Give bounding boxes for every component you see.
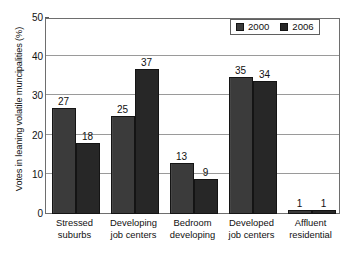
- bar-2000-developed-job-centers[interactable]: 35: [229, 77, 253, 214]
- legend-label-2000: 2000: [248, 22, 269, 32]
- y-tick-label: 40: [21, 52, 43, 62]
- x-category-label-line: Affluent: [274, 217, 348, 229]
- bar-2006-developing-job-centers[interactable]: 37: [135, 69, 159, 214]
- y-tick-label: 50: [21, 13, 43, 23]
- y-tick-label: 30: [21, 91, 43, 101]
- bar-2000-affluent-residential[interactable]: 1: [288, 210, 312, 214]
- bar-value-label: 35: [235, 66, 246, 76]
- bar-value-label: 9: [203, 168, 209, 178]
- legend-item-2006[interactable]: 2006: [280, 22, 313, 32]
- bar-group: 3534: [229, 18, 277, 214]
- y-axis-tick-labels: 01020304050: [17, 18, 43, 214]
- bars-layer: 27182537139353411: [45, 18, 340, 214]
- bar-value-label: 13: [176, 152, 187, 162]
- bar-2006-affluent-residential[interactable]: 1: [312, 210, 336, 214]
- bar-2000-bedroom-developing[interactable]: 13: [170, 163, 194, 214]
- bar-value-label: 18: [82, 132, 93, 142]
- bar-chart: Votes in leaning volatile muncipalities …: [0, 0, 356, 254]
- bar-value-label: 1: [297, 199, 303, 209]
- legend: 2000 2006: [230, 19, 320, 35]
- y-tick-label: 20: [21, 131, 43, 141]
- bar-group: 2537: [111, 18, 159, 214]
- bar-value-label: 34: [259, 70, 270, 80]
- bar-group: 2718: [52, 18, 100, 214]
- y-tick-label: 10: [21, 170, 43, 180]
- x-axis-category-labels: StressedsuburbsDevelopingjob centersBedr…: [45, 217, 340, 251]
- bar-2006-developed-job-centers[interactable]: 34: [253, 81, 277, 214]
- legend-label-2006: 2006: [292, 22, 313, 32]
- bar-value-label: 25: [117, 105, 128, 115]
- legend-swatch-icon-2006: [280, 23, 288, 31]
- bar-2000-stressed-suburbs[interactable]: 27: [52, 108, 76, 214]
- legend-item-2000[interactable]: 2000: [236, 22, 269, 32]
- bar-group: 11: [288, 18, 336, 214]
- bar-value-label: 37: [141, 58, 152, 68]
- x-category-label: Affluentresidential: [274, 217, 348, 240]
- bar-group: 139: [170, 18, 218, 214]
- x-category-label-line: residential: [274, 229, 348, 241]
- bar-2006-stressed-suburbs[interactable]: 18: [76, 143, 100, 214]
- bar-value-label: 27: [58, 97, 69, 107]
- bar-value-label: 1: [321, 199, 327, 209]
- bar-2006-bedroom-developing[interactable]: 9: [194, 179, 218, 214]
- bar-2000-developing-job-centers[interactable]: 25: [111, 116, 135, 214]
- legend-swatch-icon-2000: [236, 23, 244, 31]
